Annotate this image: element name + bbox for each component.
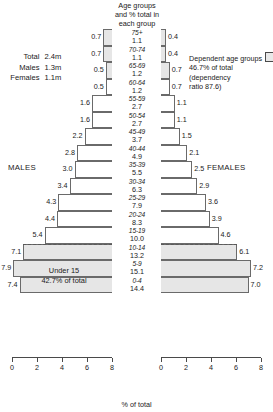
- age-group-total-percent: 7.9: [116, 202, 158, 210]
- female-bar: [161, 260, 251, 277]
- male-bar-value: 0.5: [94, 82, 104, 91]
- table-row: 6.1: [161, 244, 261, 261]
- dependency-boundary-line: [161, 244, 237, 245]
- female-bar-value: 0.7: [172, 65, 182, 74]
- table-row: 7.0: [161, 277, 261, 294]
- male-bar: [57, 211, 112, 228]
- female-bar-value: 1.1: [177, 115, 187, 124]
- female-bar-value: 6.1: [239, 247, 249, 256]
- female-bar: [161, 194, 206, 211]
- population-pyramid-chart: Age groups and % total in each group Tot…: [0, 0, 273, 412]
- table-row: 5.4: [12, 227, 112, 244]
- table-row: 7.2: [161, 260, 261, 277]
- axis-tick-label: 6: [234, 363, 238, 372]
- axis-tick: [261, 358, 262, 362]
- age-band: 15-1910.0: [116, 227, 158, 244]
- female-bar: [161, 112, 175, 129]
- female-bar-value: 2.5: [194, 164, 204, 173]
- axis-tick: [112, 358, 113, 362]
- male-bar-value: 7.4: [8, 280, 18, 289]
- male-bar: [106, 79, 112, 96]
- axis-tick-label: 0: [10, 363, 14, 372]
- male-bar: [23, 244, 112, 261]
- table-row: 1.6: [12, 95, 112, 112]
- female-bar-value: 2.1: [189, 148, 199, 157]
- axis-tick-label: 2: [184, 363, 188, 372]
- age-band: 55-592.7: [116, 95, 158, 112]
- axis-tick-label: 8: [259, 363, 263, 372]
- table-row: 2.5: [161, 161, 261, 178]
- under-15-annotation: Under 15 42.7% of total: [28, 266, 100, 286]
- caption-line-3: each group: [104, 19, 170, 28]
- table-row: 2.1: [161, 145, 261, 162]
- age-band: 65-691.2: [116, 62, 158, 79]
- age-band: 5-915.1: [116, 260, 158, 277]
- axis-tick: [161, 358, 162, 362]
- age-group-total-percent: 14.4: [116, 285, 158, 293]
- axis-tick: [236, 358, 237, 362]
- age-group-total-percent: 6.3: [116, 186, 158, 194]
- male-bar-value: 5.4: [33, 230, 43, 239]
- chart-header-caption: Age groups and % total in each group: [104, 1, 170, 29]
- female-bar: [161, 277, 249, 294]
- male-bar-value: 3.4: [58, 181, 68, 190]
- female-bar: [161, 95, 175, 112]
- female-bar-value: 0.4: [168, 32, 178, 41]
- female-bar: [161, 79, 170, 96]
- age-band: 10-1413.2: [116, 244, 158, 261]
- table-row: 1.6: [12, 112, 112, 129]
- table-row: 1.1: [161, 95, 261, 112]
- male-bar-value: 3.0: [63, 164, 73, 173]
- female-bar: [161, 244, 237, 261]
- male-bar-value: 7.9: [1, 263, 11, 272]
- table-row: 0.7: [12, 46, 112, 63]
- legend-swatch-icon: [265, 52, 273, 62]
- age-group-total-percent: 4.9: [116, 153, 158, 161]
- male-bar-value: 2.2: [73, 131, 83, 140]
- table-row: 1.5: [161, 128, 261, 145]
- table-row: 0.4: [161, 46, 261, 63]
- female-bar: [161, 145, 187, 162]
- axis-tick: [37, 358, 38, 362]
- females-panel: 0.40.40.70.71.11.11.52.12.52.93.63.94.66…: [161, 29, 261, 376]
- axis-tick-label: 6: [85, 363, 89, 372]
- age-group-column: 75+1.170-741.165-691.260-641.255-592.750…: [116, 29, 158, 293]
- axis-tick-label: 2: [35, 363, 39, 372]
- axis-tick: [62, 358, 63, 362]
- age-band: 45-493.7: [116, 128, 158, 145]
- age-group-total-percent: 13.2: [116, 252, 158, 260]
- female-bar: [161, 29, 166, 46]
- male-bar: [92, 112, 112, 129]
- age-band: 40-444.9: [116, 145, 158, 162]
- male-bar: [92, 95, 112, 112]
- axis-tick-label: 0: [159, 363, 163, 372]
- male-bar: [103, 29, 112, 46]
- male-bar-value: 0.7: [91, 32, 101, 41]
- age-group-total-percent: 1.2: [116, 70, 158, 78]
- table-row: 2.9: [161, 178, 261, 195]
- male-bar-value: 1.6: [80, 98, 90, 107]
- table-row: 0.7: [12, 29, 112, 46]
- table-row: 4.3: [12, 194, 112, 211]
- male-bar: [106, 62, 112, 79]
- males-panel: 0.70.70.50.51.61.62.22.83.03.44.34.45.47…: [12, 29, 112, 376]
- table-row: 0.4: [161, 29, 261, 46]
- male-bar-value: 4.3: [46, 197, 56, 206]
- male-bar-value: 2.8: [65, 148, 75, 157]
- age-group-total-percent: 8.3: [116, 219, 158, 227]
- male-bar-value: 4.4: [45, 214, 55, 223]
- female-bar-value: 2.9: [199, 181, 209, 190]
- age-band: 35-395.5: [116, 161, 158, 178]
- male-bar-value: 0.5: [94, 65, 104, 74]
- female-bar: [161, 211, 210, 228]
- female-bar: [161, 62, 170, 79]
- table-row: 3.0: [12, 161, 112, 178]
- axis-tick: [186, 358, 187, 362]
- age-group-total-percent: 10.0: [116, 235, 158, 243]
- under-15-line-2: 42.7% of total: [28, 276, 100, 286]
- axis-title: % of total: [0, 400, 273, 409]
- table-row: 0.7: [161, 62, 261, 79]
- female-bar-value: 3.6: [208, 197, 218, 206]
- female-bar: [161, 178, 197, 195]
- female-bar-value: 1.5: [182, 131, 192, 140]
